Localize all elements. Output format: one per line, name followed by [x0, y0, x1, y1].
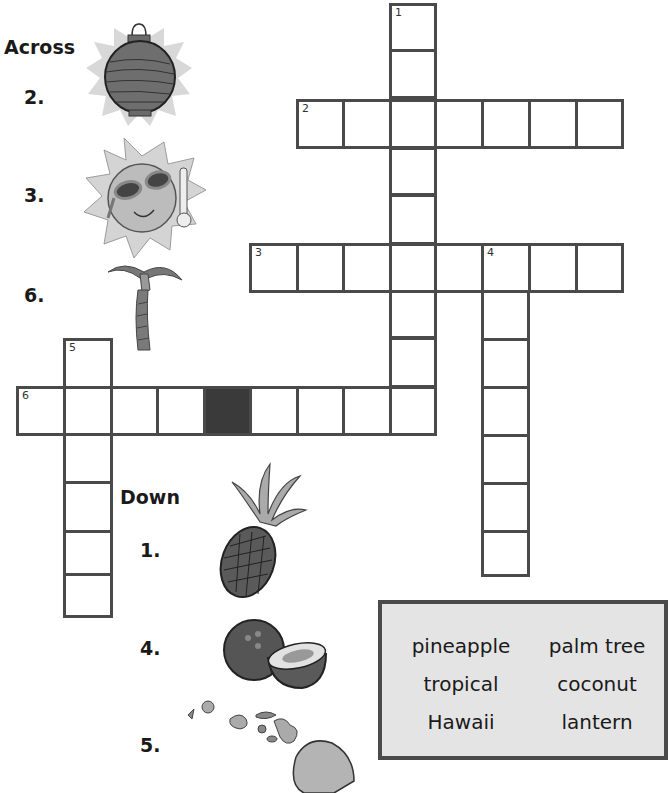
- word-bank-item: Hawaii: [396, 710, 526, 734]
- grid-cell[interactable]: [156, 386, 206, 436]
- across-clue-3-number: 3.: [24, 184, 44, 206]
- hot-sun-icon: [84, 138, 208, 258]
- grid-cell[interactable]: [389, 194, 437, 245]
- down-clue-4-number: 4.: [140, 637, 160, 659]
- grid-cell[interactable]: [63, 386, 113, 436]
- word-bank-item: tropical: [396, 672, 526, 696]
- grid-cell[interactable]: 2: [296, 99, 345, 149]
- grid-cell[interactable]: [389, 147, 437, 196]
- grid-cell[interactable]: [575, 99, 624, 149]
- grid-cell[interactable]: [342, 99, 392, 149]
- down-clue-1-number: 1.: [140, 539, 160, 561]
- grid-cell[interactable]: [481, 290, 530, 341]
- word-bank: pineapple palm tree tropical coconut Haw…: [378, 600, 668, 760]
- down-heading: Down: [120, 486, 180, 508]
- blocked-cell: [203, 386, 252, 436]
- grid-cell[interactable]: [481, 386, 530, 437]
- grid-cell[interactable]: [481, 530, 530, 577]
- grid-cell[interactable]: [434, 243, 484, 293]
- across-clue-6-number: 6.: [24, 284, 44, 306]
- cell-number: 3: [255, 246, 262, 259]
- grid-cell[interactable]: [389, 49, 437, 99]
- grid-cell[interactable]: [63, 481, 113, 533]
- grid-cell[interactable]: 1: [389, 3, 437, 52]
- cell-number: 6: [22, 389, 29, 402]
- cell-number: 4: [487, 246, 494, 259]
- grid-cell[interactable]: 3: [249, 243, 299, 293]
- cell-number: 1: [395, 6, 402, 19]
- grid-cell[interactable]: [528, 99, 578, 149]
- grid-cell[interactable]: [249, 386, 299, 436]
- grid-cell[interactable]: [389, 386, 437, 436]
- grid-cell[interactable]: [63, 433, 113, 484]
- coconut-icon: [222, 618, 332, 690]
- grid-cell[interactable]: [296, 243, 345, 293]
- grid-cell[interactable]: [342, 243, 392, 293]
- grid-cell[interactable]: [389, 99, 437, 149]
- word-bank-item: coconut: [532, 672, 662, 696]
- grid-cell[interactable]: 6: [16, 386, 66, 436]
- across-heading: Across: [4, 36, 75, 58]
- pineapple-icon: [210, 462, 310, 602]
- grid-cell[interactable]: [63, 530, 113, 576]
- grid-cell[interactable]: [389, 289, 437, 339]
- grid-cell[interactable]: [63, 573, 113, 618]
- hawaii-islands-icon: [184, 695, 364, 793]
- palm-tree-icon: [104, 256, 184, 356]
- cell-number: 2: [302, 102, 309, 115]
- down-clue-5-number: 5.: [140, 734, 160, 756]
- grid-cell[interactable]: [481, 482, 530, 533]
- grid-cell[interactable]: [110, 386, 159, 436]
- cell-number: 5: [69, 341, 76, 354]
- grid-cell[interactable]: [389, 243, 437, 293]
- word-bank-item: lantern: [532, 710, 662, 734]
- grid-cell[interactable]: [434, 99, 484, 149]
- word-bank-item: pineapple: [396, 634, 526, 658]
- grid-cell[interactable]: 4: [481, 243, 531, 293]
- grid-cell[interactable]: [296, 386, 345, 436]
- grid-cell[interactable]: [342, 386, 392, 436]
- grid-cell[interactable]: [575, 243, 624, 293]
- grid-cell[interactable]: [389, 337, 437, 388]
- word-bank-item: palm tree: [532, 634, 662, 658]
- across-clue-2-number: 2.: [24, 86, 44, 108]
- grid-cell[interactable]: [528, 243, 578, 293]
- grid-cell[interactable]: 5: [63, 338, 113, 389]
- lantern-icon: [84, 20, 194, 130]
- grid-cell[interactable]: [481, 434, 530, 485]
- grid-cell[interactable]: [481, 99, 531, 149]
- grid-cell[interactable]: [481, 338, 530, 389]
